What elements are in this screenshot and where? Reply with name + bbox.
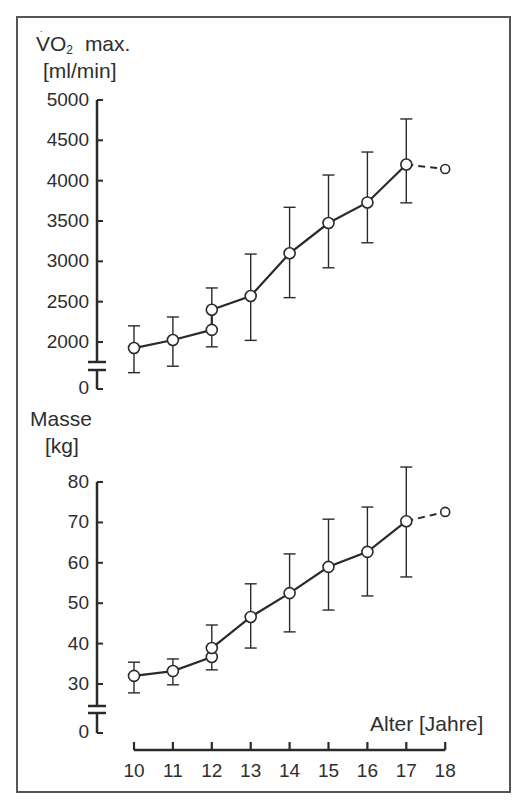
vo2-series-line	[134, 165, 406, 349]
mass-data-point-marker	[284, 588, 295, 599]
plot-area	[0, 0, 522, 800]
vo2-data-point-marker	[129, 343, 140, 354]
vo2-data-point-marker	[401, 159, 412, 170]
mass-data-point-marker	[206, 643, 217, 654]
vo2-data-point-marker	[167, 334, 178, 345]
mass-data-point-marker	[245, 611, 256, 622]
vo2-extension-marker	[441, 164, 450, 173]
vo2-data-point-marker	[362, 197, 373, 208]
mass-data-point-marker	[401, 516, 412, 527]
vo2-data-point-marker	[206, 304, 217, 315]
mass-extension-marker	[441, 507, 450, 516]
vo2-data-point-marker	[206, 324, 217, 335]
vo2-data-point-marker	[245, 291, 256, 302]
mass-data-point-marker	[167, 666, 178, 677]
mass-data-point-marker	[323, 561, 334, 572]
mass-series-line	[134, 521, 406, 676]
mass-data-point-marker	[129, 670, 140, 681]
vo2-data-point-marker	[284, 248, 295, 259]
mass-data-point-marker	[362, 546, 373, 557]
vo2-data-point-marker	[323, 218, 334, 229]
